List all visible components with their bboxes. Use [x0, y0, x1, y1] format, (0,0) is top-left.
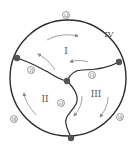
region-label-3: III: [91, 89, 102, 99]
arrow-center-right-icon: [70, 61, 88, 63]
region-label-4: IV: [105, 30, 114, 39]
arrow-right-down-icon: [100, 97, 108, 117]
arrow-top-icon: [47, 35, 78, 40]
junction-node-right: [116, 59, 122, 65]
label-ra: 라: [58, 100, 65, 107]
label-na: 나: [63, 12, 70, 19]
label-da: 다: [89, 72, 96, 79]
label-ga: 가: [28, 67, 35, 74]
svg-text:가: 가: [29, 67, 34, 74]
svg-text:라: 라: [59, 100, 64, 107]
svg-text:바: 바: [12, 116, 17, 123]
junction-node-center: [64, 78, 70, 84]
svg-text:다: 다: [90, 72, 95, 79]
plate-boundary-diagram: I II III IV 나 가 다 라 마 바: [0, 0, 135, 150]
junction-node-bottom: [68, 135, 74, 141]
region-label-2: II: [41, 94, 49, 104]
svg-text:마: 마: [118, 114, 123, 121]
boundary-ga: [17, 58, 67, 81]
label-ma: 마: [117, 114, 124, 121]
region-label-1: I: [64, 46, 68, 56]
junction-node-left: [14, 55, 20, 61]
label-ba: 바: [11, 116, 18, 123]
arrow-left-up-icon: [24, 93, 36, 115]
svg-text:나: 나: [64, 12, 69, 19]
boundary-ra: [66, 81, 78, 138]
